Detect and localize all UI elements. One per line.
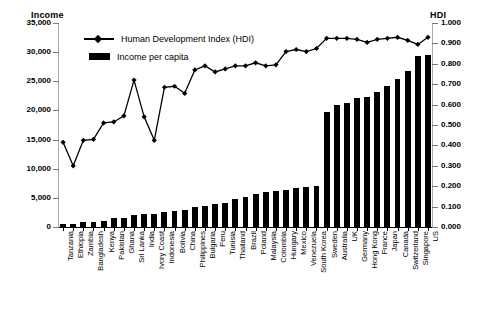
hdi-data-point-marker xyxy=(243,63,248,68)
right-axis-tick-label: 0.500 xyxy=(441,120,461,129)
x-axis-label: Ghana xyxy=(127,231,136,254)
x-axis-label: Thailand xyxy=(238,231,247,260)
hdi-data-point-marker xyxy=(365,40,370,45)
plot-area xyxy=(58,23,433,227)
hdi-data-point-marker xyxy=(131,78,136,83)
right-axis-tick-label: 0.100 xyxy=(441,202,461,211)
right-axis-tick-label: 0.800 xyxy=(441,59,461,68)
x-axis-label: Ethiopia xyxy=(76,231,85,258)
x-axis-tick xyxy=(175,227,176,231)
x-axis-label: Germany xyxy=(360,231,369,262)
x-axis-tick xyxy=(377,227,378,231)
x-axis-label: UK xyxy=(350,231,359,241)
hdi-data-point-marker xyxy=(81,138,86,143)
x-axis-label: India xyxy=(147,231,156,247)
x-axis-label: Hong Kong xyxy=(370,231,379,269)
hdi-income-chart: Income HDI 35,00030,00025,00020,00015,00… xyxy=(0,0,484,309)
x-axis-label: Bolivia xyxy=(178,231,187,253)
x-axis-tick xyxy=(306,227,307,231)
x-axis-label: Venezuela xyxy=(309,231,318,266)
x-axis-tick xyxy=(235,227,236,231)
x-axis-label: China xyxy=(188,231,197,251)
x-axis-tick xyxy=(225,227,226,231)
x-axis-label: Tanzania xyxy=(66,231,75,261)
x-axis-label: Bangladesh xyxy=(96,231,105,271)
x-axis-label: Hungary xyxy=(289,231,298,259)
x-axis-tick xyxy=(316,227,317,231)
x-axis-label: Switzerland xyxy=(411,231,420,270)
left-axis-tick-label: 25,000 xyxy=(27,76,51,85)
hdi-data-point-marker xyxy=(253,60,258,65)
hdi-data-point-marker xyxy=(233,63,238,68)
x-axis-tick xyxy=(256,227,257,231)
x-axis-label: France xyxy=(380,231,389,254)
x-axis-tick xyxy=(337,227,338,231)
hdi-data-point-marker xyxy=(60,140,65,145)
x-axis-label: Pakistan xyxy=(117,231,126,260)
left-axis-tick-label: 20,000 xyxy=(27,105,51,114)
x-axis-tick xyxy=(164,227,165,231)
x-axis-label: Canada xyxy=(401,231,410,257)
x-axis-tick xyxy=(357,227,358,231)
right-axis-tick-label: 0.600 xyxy=(441,100,461,109)
hdi-data-point-marker xyxy=(344,36,349,41)
x-axis-tick xyxy=(134,227,135,231)
hdi-data-point-marker xyxy=(71,163,76,168)
x-axis-tick xyxy=(73,227,74,231)
x-axis-label: Ivory Coast xyxy=(157,231,166,269)
x-axis-tick xyxy=(114,227,115,231)
x-axis-tick xyxy=(246,227,247,231)
x-axis-tick xyxy=(195,227,196,231)
x-axis-label: US xyxy=(431,231,440,241)
x-axis-tick xyxy=(144,227,145,231)
x-axis-label: Zambia xyxy=(86,231,95,256)
x-axis-label: Indonesia xyxy=(167,231,176,264)
x-axis-label: Peru xyxy=(218,231,227,247)
x-axis-tick xyxy=(104,227,105,231)
x-axis-tick xyxy=(215,227,216,231)
x-axis-label: Sri Lanka xyxy=(137,231,146,263)
hdi-data-point-marker xyxy=(375,37,380,42)
hdi-data-point-marker xyxy=(294,47,299,52)
x-axis-label: Australia xyxy=(340,231,349,260)
x-axis-label: Colombia xyxy=(279,231,288,263)
right-axis-tick-label: 0.300 xyxy=(441,161,461,170)
x-axis-label: Singapore xyxy=(421,231,430,265)
x-axis-tick xyxy=(185,227,186,231)
x-axis-tick xyxy=(83,227,84,231)
x-axis-tick xyxy=(418,227,419,231)
x-axis-tick xyxy=(124,227,125,231)
hdi-data-point-marker xyxy=(304,49,309,54)
x-axis-tick xyxy=(93,227,94,231)
x-axis-tick xyxy=(286,227,287,231)
x-axis-category-labels: TanzaniaEthiopiaZambiaBangladeshKenyaPak… xyxy=(58,229,433,307)
x-axis-tick xyxy=(347,227,348,231)
x-axis-label: Malaysia xyxy=(269,231,278,261)
x-axis-label: Tunisia xyxy=(228,231,237,255)
x-axis-label: Brazil xyxy=(249,231,258,250)
x-axis-label: Mexico xyxy=(299,231,308,255)
hdi-data-point-marker xyxy=(354,37,359,42)
hdi-data-point-marker xyxy=(395,35,400,40)
x-axis-label: Philippines xyxy=(198,231,207,267)
x-axis-label: Japan xyxy=(390,231,399,251)
x-axis-label: Kenya xyxy=(107,231,116,252)
x-axis-tick xyxy=(408,227,409,231)
hdi-data-point-marker xyxy=(162,85,167,90)
left-axis-tick-label: 5,000 xyxy=(31,193,51,202)
hdi-line-path xyxy=(63,37,428,166)
x-axis-label: Sweden xyxy=(330,231,339,258)
left-axis-tick-label: 30,000 xyxy=(27,47,51,56)
hdi-data-point-marker xyxy=(142,114,147,119)
x-axis-tick xyxy=(266,227,267,231)
x-axis-tick xyxy=(296,227,297,231)
hdi-data-point-marker xyxy=(192,67,197,72)
left-axis-tick-label: 35,000 xyxy=(27,18,51,27)
right-axis-tick-label: 0.000 xyxy=(441,222,461,231)
x-axis-label: Bulgaria xyxy=(208,231,217,259)
x-axis-label: Poland xyxy=(259,231,268,254)
right-axis-tick-label: 0.900 xyxy=(441,38,461,47)
right-axis-tick-label: 0.200 xyxy=(441,181,461,190)
x-axis-label: South Korea xyxy=(319,231,328,273)
left-axis-tick-label: 15,000 xyxy=(27,135,51,144)
